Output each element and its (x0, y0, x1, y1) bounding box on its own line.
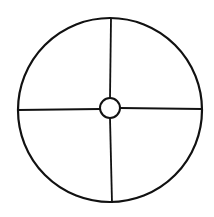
diagram-canvas (0, 0, 214, 217)
quadrant-circle-diagram (0, 0, 214, 217)
inner-hub-circle (100, 98, 120, 118)
spoke-right (120, 108, 202, 109)
spoke-left (18, 109, 100, 110)
spoke-bottom (110, 118, 112, 203)
spoke-top (110, 18, 111, 98)
